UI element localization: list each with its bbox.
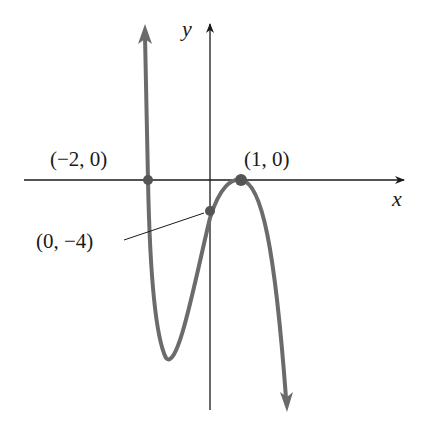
point-1-0 — [235, 174, 247, 186]
point-neg2-0 — [143, 175, 153, 185]
point-0-neg4 — [205, 206, 215, 216]
x-axis-label: x — [391, 186, 402, 211]
graph: y x (−2, 0) (1, 0) (0, −4) — [0, 0, 425, 432]
y-axis-label: y — [180, 16, 192, 41]
label-1-0: (1, 0) — [244, 147, 290, 171]
label-0-neg4: (0, −4) — [36, 229, 93, 253]
leader-line — [124, 213, 204, 240]
curve — [145, 36, 286, 398]
label-neg2-0: (−2, 0) — [50, 147, 107, 171]
